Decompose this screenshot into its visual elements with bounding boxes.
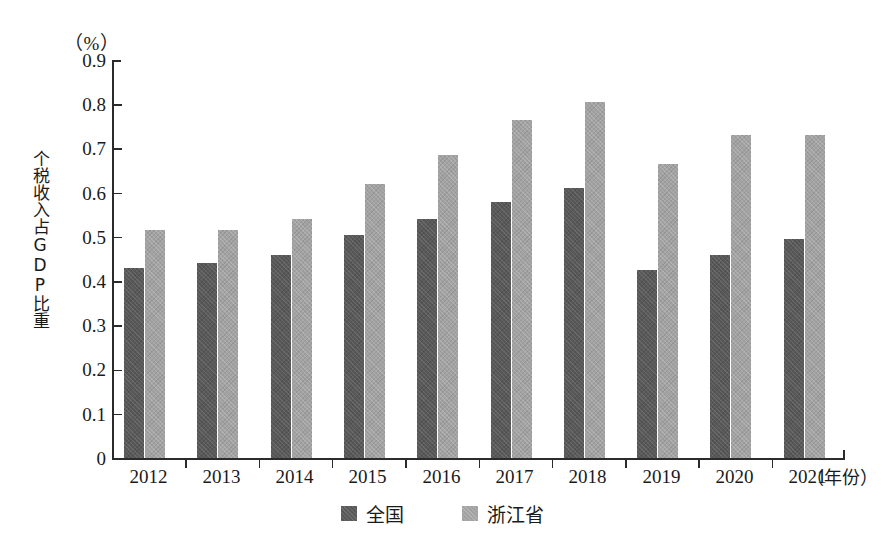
bar-2021-national <box>784 239 804 458</box>
x-axis-title: （年份） <box>806 463 878 489</box>
y-tick-label: 0.2 <box>60 359 106 381</box>
x-axis-tick <box>185 460 187 468</box>
y-axis-tick <box>114 104 122 106</box>
y-tick-label: 0 <box>60 448 106 470</box>
y-tick-label: 0.8 <box>60 94 106 116</box>
bar-2019-national <box>637 270 657 458</box>
y-axis-title: 个税收入占GDP比重 <box>22 150 48 329</box>
bar-2013-zhejiang <box>218 230 238 458</box>
y-axis-tick <box>114 325 122 327</box>
bar-2018-national <box>564 188 584 458</box>
bar-2014-national <box>271 255 291 458</box>
y-axis-tick <box>114 148 122 150</box>
x-axis-tick <box>332 460 334 468</box>
y-axis-line <box>112 60 114 458</box>
x-tick-label: 2018 <box>551 466 624 488</box>
bar-2021-zhejiang <box>805 135 825 458</box>
x-tick-label: 2013 <box>185 466 258 488</box>
legend-item-zhejiang: 浙江省 <box>462 500 544 527</box>
x-axis-tick <box>259 460 261 468</box>
y-tick-label: 0.4 <box>60 271 106 293</box>
y-axis-tick <box>114 370 122 372</box>
x-tick-label: 2014 <box>258 466 331 488</box>
y-axis-tick <box>114 237 122 239</box>
bar-2017-national <box>491 202 511 459</box>
bar-2012-zhejiang <box>145 230 165 458</box>
legend-swatch-icon <box>462 506 478 521</box>
legend-item-national: 全国 <box>341 500 404 527</box>
bar-2020-national <box>710 255 730 458</box>
bar-2015-zhejiang <box>365 184 385 458</box>
y-axis-tick <box>114 414 122 416</box>
x-tick-label: 2019 <box>625 466 698 488</box>
bar-2019-zhejiang <box>658 164 678 458</box>
x-tick-label: 2016 <box>405 466 478 488</box>
bar-2016-national <box>417 219 437 458</box>
x-tick-label: 2020 <box>698 466 771 488</box>
bar-2020-zhejiang <box>731 135 751 458</box>
x-tick-label: 2015 <box>331 466 404 488</box>
x-axis-tick <box>772 460 774 468</box>
bar-2016-zhejiang <box>438 155 458 458</box>
legend-label: 浙江省 <box>487 500 544 527</box>
x-axis-tick <box>552 460 554 468</box>
y-tick-label: 0.9 <box>60 50 106 72</box>
x-axis-tick <box>625 460 627 468</box>
chart-legend: 全国 浙江省 <box>0 500 885 527</box>
bar-2018-zhejiang <box>585 102 605 458</box>
y-axis-tick <box>114 281 122 283</box>
legend-label: 全国 <box>366 500 404 527</box>
y-tick-label: 0.6 <box>60 183 106 205</box>
bar-2017-zhejiang <box>512 120 532 458</box>
x-axis-tick <box>405 460 407 468</box>
bar-chart: （%） 个税收入占GDP比重 0.9 0.8 0.7 0.6 0.5 0.4 0… <box>0 0 885 558</box>
y-tick-label: 0.5 <box>60 227 106 249</box>
legend-swatch-icon <box>341 506 357 521</box>
x-axis-tick <box>698 460 700 468</box>
y-axis-top-cap <box>112 60 121 62</box>
y-tick-label: 0.1 <box>60 404 106 426</box>
bar-2014-zhejiang <box>292 219 312 458</box>
bar-2015-national <box>344 235 364 458</box>
plot-area <box>112 60 845 458</box>
bar-2013-national <box>197 263 217 458</box>
y-axis-tick <box>114 193 122 195</box>
x-tick-label: 2012 <box>112 466 185 488</box>
x-tick-label: 2017 <box>478 466 551 488</box>
bar-2012-national <box>124 268 144 458</box>
x-axis-right-cap <box>843 450 845 459</box>
y-tick-label: 0.7 <box>60 138 106 160</box>
x-axis-tick <box>479 460 481 468</box>
y-tick-label: 0.3 <box>60 315 106 337</box>
